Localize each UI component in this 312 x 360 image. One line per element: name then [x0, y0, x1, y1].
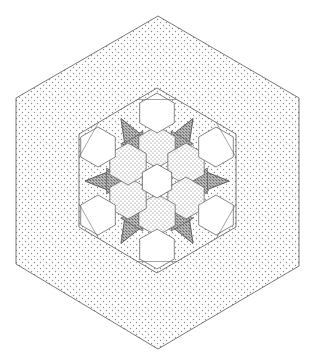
quilt-diagram — [0, 0, 312, 360]
